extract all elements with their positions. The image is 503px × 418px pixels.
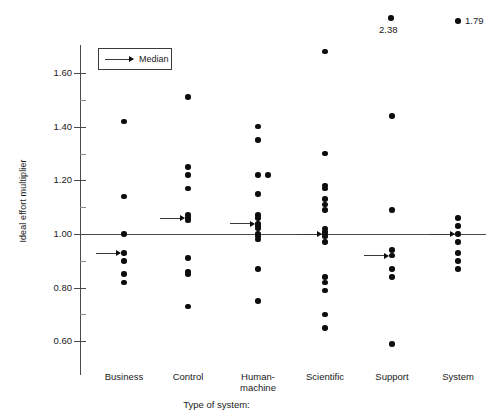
x-axis-label-line: machine	[226, 382, 290, 393]
y-tick-major	[74, 288, 86, 289]
y-tick-label-text: 1.40	[36, 122, 72, 132]
dot-plot-figure: Ideal effort multiplier 0.600.801.001.20…	[0, 0, 503, 418]
x-axis-label-system: System	[426, 371, 490, 382]
y-tick-minor	[80, 207, 86, 208]
y-tick-label-text: 1.20	[36, 175, 72, 185]
y-tick-label-text: 0.80	[36, 283, 72, 293]
data-point	[185, 164, 191, 170]
data-point	[455, 250, 461, 256]
x-axis-label-line: Support	[360, 371, 424, 382]
data-point	[185, 94, 191, 100]
reference-line	[80, 234, 486, 235]
x-axis-label-human-machine: Human-machine	[226, 371, 290, 393]
data-point	[255, 137, 261, 143]
x-axis-label-line: Control	[156, 371, 220, 382]
x-axis-label-line: Human-	[226, 371, 290, 382]
legend-label-median: Median	[139, 54, 169, 64]
x-axis-label-control: Control	[156, 371, 220, 382]
data-point	[455, 231, 461, 237]
y-tick-label-text: 1.60	[36, 68, 72, 78]
y-tick-major	[74, 180, 86, 181]
data-point	[322, 186, 328, 192]
data-point	[389, 266, 395, 272]
y-tick-major	[74, 73, 86, 74]
data-point	[322, 312, 328, 318]
data-point	[389, 341, 395, 347]
data-point	[255, 237, 261, 243]
data-point	[185, 172, 191, 178]
y-tick-label: 1.00	[28, 229, 72, 239]
offscale-point-label: 1.79	[465, 15, 484, 26]
legend-box: Median	[98, 48, 172, 70]
offscale-point	[388, 15, 394, 21]
data-point	[455, 239, 461, 245]
y-tick-label: 1.60	[28, 68, 72, 78]
data-point	[121, 250, 127, 256]
data-point	[255, 191, 261, 197]
x-axis-title-text: Type of system:	[183, 399, 250, 410]
data-point	[322, 49, 328, 55]
y-tick-label-text: 1.00	[36, 229, 72, 239]
data-point	[455, 223, 461, 229]
x-axis-label-line: Scientific	[293, 371, 357, 382]
data-point	[121, 280, 127, 286]
data-point	[185, 218, 191, 224]
data-point	[255, 172, 261, 178]
data-point	[121, 258, 127, 264]
data-point	[255, 298, 261, 304]
data-point	[389, 253, 395, 259]
data-point	[255, 266, 261, 272]
data-point	[121, 271, 127, 277]
y-axis-line	[80, 45, 81, 375]
data-point	[322, 274, 328, 280]
x-axis-label-line: System	[426, 371, 490, 382]
y-tick-major	[74, 127, 86, 128]
offscale-point-label: 2.38	[379, 24, 398, 35]
x-axis-label-business: Business	[92, 371, 156, 382]
y-tick-minor	[80, 154, 86, 155]
data-point	[121, 119, 127, 125]
data-point	[389, 113, 395, 119]
x-axis-label-support: Support	[360, 371, 424, 382]
offscale-point	[455, 18, 461, 24]
data-point	[389, 207, 395, 213]
data-point	[322, 280, 328, 286]
y-tick-major	[74, 341, 86, 342]
data-point	[322, 239, 328, 245]
y-tick-label: 0.60	[28, 336, 72, 346]
y-tick-minor	[80, 100, 86, 101]
y-tick-minor	[80, 314, 86, 315]
data-point	[185, 186, 191, 192]
median-arrow-icon	[105, 59, 133, 60]
data-point	[455, 258, 461, 264]
data-point	[322, 325, 328, 331]
data-point	[265, 172, 271, 178]
data-point	[322, 288, 328, 294]
y-tick-minor	[80, 261, 86, 262]
y-tick-label-text: 0.60	[36, 336, 72, 346]
data-point	[455, 266, 461, 272]
median-arrow-scientific	[297, 234, 321, 235]
data-point	[121, 231, 127, 237]
y-tick-label: 1.20	[28, 175, 72, 185]
data-point	[322, 151, 328, 157]
median-arrow-system	[430, 234, 454, 235]
x-axis-label-scientific: Scientific	[293, 371, 357, 382]
median-arrow-business	[96, 253, 120, 254]
data-point	[255, 215, 261, 221]
data-point	[121, 194, 127, 200]
data-point	[389, 274, 395, 280]
x-axis-label-line: Business	[92, 371, 156, 382]
data-point	[455, 215, 461, 221]
data-point	[185, 304, 191, 310]
median-arrow-support	[364, 255, 388, 256]
y-tick-label: 0.80	[28, 283, 72, 293]
y-tick-label: 1.40	[28, 122, 72, 132]
data-point	[255, 124, 261, 130]
data-point	[185, 271, 191, 277]
median-arrow-human-machine	[230, 223, 254, 224]
median-arrow-control	[160, 218, 184, 219]
data-point	[322, 207, 328, 213]
x-axis-title: Type of system:	[0, 399, 503, 410]
data-point	[185, 255, 191, 261]
